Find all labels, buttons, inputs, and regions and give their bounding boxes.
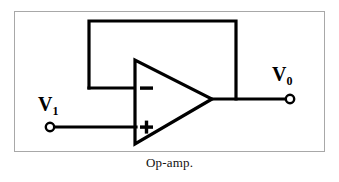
output-voltage-symbol: V <box>272 63 286 85</box>
output-voltage-label: V0 <box>272 64 292 84</box>
input-voltage-symbol: V <box>38 93 52 115</box>
op-amp-figure: V1 V0 Op-amp. <box>0 0 339 182</box>
figure-caption: Op-amp. <box>0 155 339 171</box>
input-terminal-node[interactable] <box>46 123 54 131</box>
output-terminal-node[interactable] <box>286 95 294 103</box>
input-voltage-subscript: 1 <box>52 104 58 118</box>
inverting-input-minus-icon <box>140 86 153 89</box>
input-voltage-label: V1 <box>38 94 58 114</box>
output-voltage-subscript: 0 <box>286 74 292 88</box>
